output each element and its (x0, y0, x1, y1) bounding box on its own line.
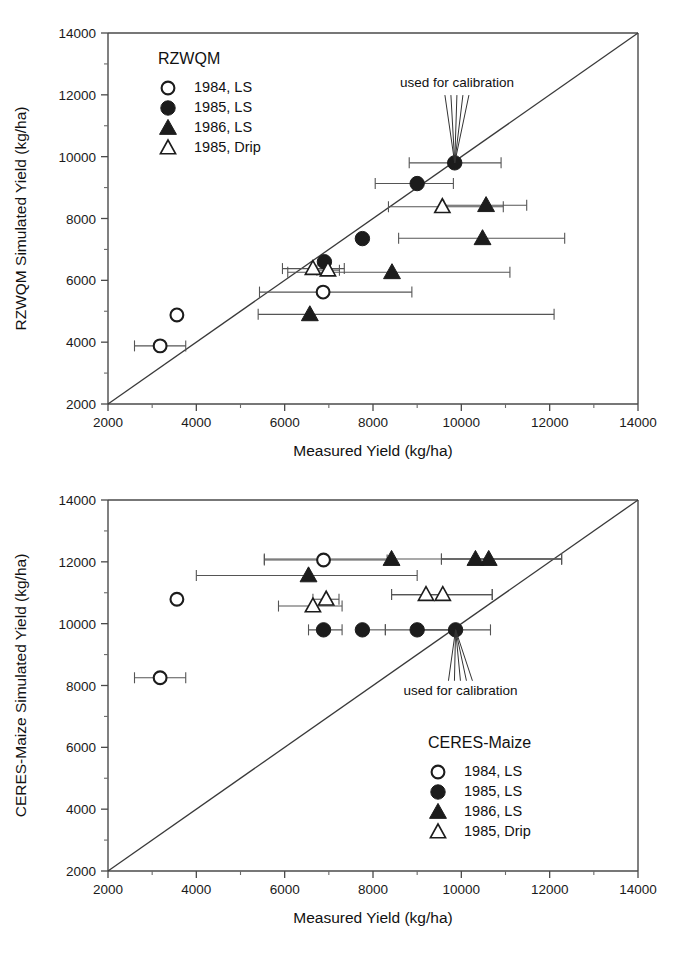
legend-item-label: 1984, LS (464, 763, 522, 779)
legend: RZWQM1984, LS1985, LS1986, LS1985, Drip (158, 50, 261, 155)
y-tick-label: 14000 (58, 493, 96, 508)
legend-title: RZWQM (158, 50, 220, 67)
ceres-maize-scatter-plot: 2000400060008000100001200014000200040006… (0, 470, 680, 971)
data-point-open-circle (432, 766, 445, 779)
y-tick-label: 2000 (66, 397, 96, 412)
y-axis-ticks: 2000400060008000100001200014000 (58, 26, 108, 412)
y-tick-label: 14000 (58, 26, 96, 41)
x-tick-label: 14000 (619, 415, 657, 430)
x-tick-label: 4000 (181, 415, 211, 430)
data-point-open-triangle (160, 140, 175, 154)
legend-item[interactable]: 1984, LS (432, 763, 522, 779)
legend-item-label: 1984, LS (194, 79, 252, 95)
data-point-open-circle (171, 309, 184, 322)
y-axis-title: RZWQM Simulated Yield (kg/ha) (12, 107, 29, 331)
data-point-filled-triangle (160, 119, 177, 134)
legend-item[interactable]: 1985, Drip (160, 139, 261, 155)
x-tick-label: 10000 (443, 415, 481, 430)
annotation-leader-line (456, 630, 467, 681)
legend-item-label: 1985, Drip (194, 139, 261, 155)
x-tick-label: 8000 (358, 415, 388, 430)
one-to-one-reference-line (108, 500, 638, 871)
legend-item-label: 1985, LS (194, 99, 252, 115)
annotation-label: used for calibration (400, 75, 514, 90)
y-axis-ticks: 2000400060008000100001200014000 (58, 493, 108, 879)
x-tick-label: 14000 (619, 882, 657, 897)
x-tick-label: 4000 (181, 882, 211, 897)
x-tick-label: 12000 (531, 882, 569, 897)
data-point-open-triangle (435, 587, 450, 601)
legend-item-label: 1985, Drip (464, 823, 531, 839)
chart-panel-ceres-maize: 2000400060008000100001200014000200040006… (0, 470, 680, 971)
error-bars (135, 157, 565, 351)
data-point-filled-triangle (430, 803, 447, 818)
annotation-label: used for calibration (403, 683, 517, 698)
legend-item-label: 1985, LS (464, 783, 522, 799)
data-point-filled-triangle (301, 306, 318, 321)
legend-item[interactable]: 1985, Drip (430, 823, 531, 839)
x-axis-title: Measured Yield (kg/ha) (293, 442, 452, 459)
x-tick-label: 8000 (358, 882, 388, 897)
data-point-filled-circle (355, 231, 369, 245)
y-tick-label: 8000 (66, 212, 96, 227)
x-tick-label: 12000 (531, 415, 569, 430)
error-bars (135, 554, 562, 684)
x-tick-label: 2000 (93, 882, 123, 897)
data-point-open-circle (162, 82, 175, 95)
legend-item[interactable]: 1985, LS (431, 783, 522, 799)
x-axis-ticks: 2000400060008000100001200014000 (93, 404, 657, 430)
data-point-open-circle (154, 339, 167, 352)
data-point-open-circle (317, 554, 330, 567)
data-point-open-circle (171, 593, 184, 606)
one-to-one-reference-line (108, 33, 638, 404)
legend-title: CERES-Maize (428, 734, 531, 751)
data-point-filled-circle (161, 101, 175, 115)
data-point-open-circle (154, 671, 167, 684)
x-axis-title: Measured Yield (kg/ha) (293, 909, 452, 926)
y-tick-label: 4000 (66, 335, 96, 350)
data-point-filled-circle (431, 785, 445, 799)
data-point-filled-triangle (467, 550, 484, 565)
data-point-filled-triangle (474, 230, 491, 245)
data-point-open-triangle (430, 824, 445, 838)
data-point-filled-circle (316, 623, 330, 637)
data-point-filled-triangle (384, 264, 401, 279)
data-point-open-circle (317, 286, 330, 299)
y-tick-label: 10000 (58, 617, 96, 632)
y-tick-label: 4000 (66, 802, 96, 817)
data-points (154, 550, 497, 684)
x-axis-ticks: 2000400060008000100001200014000 (93, 871, 657, 897)
x-tick-label: 2000 (93, 415, 123, 430)
error-bar (259, 287, 411, 298)
chart-panel-rzwqm: 2000400060008000100001200014000200040006… (0, 0, 680, 470)
data-point-filled-triangle (300, 567, 317, 582)
data-point-open-triangle (418, 587, 433, 601)
data-point-open-triangle (319, 591, 334, 605)
legend-item[interactable]: 1984, LS (162, 79, 252, 95)
data-point-filled-triangle (383, 550, 400, 565)
y-tick-label: 6000 (66, 273, 96, 288)
legend-item-label: 1986, LS (194, 119, 252, 135)
legend-item-label: 1986, LS (464, 803, 522, 819)
data-point-filled-circle (410, 623, 424, 637)
x-tick-label: 10000 (443, 882, 481, 897)
y-tick-label: 12000 (58, 88, 96, 103)
data-points (154, 156, 495, 353)
legend: CERES-Maize1984, LS1985, LS1986, LS1985,… (428, 734, 531, 839)
y-tick-label: 6000 (66, 740, 96, 755)
data-point-filled-triangle (478, 197, 495, 212)
legend-item[interactable]: 1985, LS (161, 99, 252, 115)
y-tick-label: 10000 (58, 150, 96, 165)
annotation: used for calibration (400, 75, 514, 163)
y-tick-label: 2000 (66, 864, 96, 879)
data-point-filled-circle (410, 176, 424, 190)
y-axis-title: CERES-Maize Simulated Yield (kg/ha) (12, 554, 29, 818)
x-tick-label: 6000 (270, 415, 300, 430)
annotation: used for calibration (403, 630, 517, 698)
rzwqm-scatter-plot: 2000400060008000100001200014000200040006… (0, 0, 680, 470)
legend-item[interactable]: 1986, LS (160, 119, 252, 135)
x-tick-label: 6000 (270, 882, 300, 897)
legend-item[interactable]: 1986, LS (430, 803, 522, 819)
y-tick-label: 12000 (58, 555, 96, 570)
data-point-filled-circle (355, 623, 369, 637)
